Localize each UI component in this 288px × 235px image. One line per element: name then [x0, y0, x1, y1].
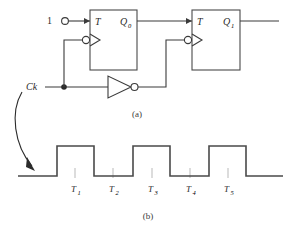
- period-subscript-5: 5: [231, 189, 235, 196]
- q0-arrowhead: [186, 18, 192, 24]
- flipflop-1-q-label: Q: [223, 16, 231, 27]
- period-subscript-1: 1: [78, 189, 81, 196]
- figure-container: 1 T Q 0 T Q 1: [0, 0, 288, 235]
- caption-a: (a): [132, 109, 142, 119]
- clock-label: Ck: [26, 81, 38, 92]
- flipflop-1-t-label: T: [197, 16, 204, 27]
- flipflop-1-clock-bubble: [184, 36, 191, 43]
- flipflop-0-q-subscript: 0: [128, 22, 132, 29]
- flipflop-0-q-label: Q: [120, 16, 128, 27]
- figure-svg: 1 T Q 0 T Q 1: [0, 0, 288, 235]
- clock-to-waveform-arrowhead: [26, 157, 35, 171]
- period-subscript-3: 3: [154, 189, 159, 196]
- input-terminal-circle: [62, 18, 69, 25]
- wire-clock-to-ff0: [64, 40, 82, 87]
- period-label-3: T: [148, 184, 154, 194]
- flipflop-0-clock-bubble: [82, 36, 89, 43]
- flipflop-1-q-subscript: 1: [231, 22, 234, 29]
- not-gate-bubble: [131, 84, 138, 91]
- period-label-5: T: [224, 184, 230, 194]
- input-arrowhead: [84, 18, 90, 24]
- flipflop-0-t-label: T: [95, 16, 102, 27]
- waveform-diagram: T 1 T 2 T 3 T 4 T 5 (b): [15, 92, 283, 221]
- period-label-4: T: [186, 184, 192, 194]
- flipflop-1-clock-triangle: [192, 34, 202, 46]
- period-label-1: T: [71, 184, 77, 194]
- period-subscript-4: 4: [193, 189, 197, 196]
- flipflop-0-clock-triangle: [90, 34, 100, 46]
- clock-to-waveform-arrow-curve: [15, 92, 32, 166]
- period-subscript-2: 2: [116, 189, 120, 196]
- caption-b: (b): [143, 211, 154, 221]
- input-one-label: 1: [47, 15, 52, 26]
- period-label-2: T: [109, 184, 115, 194]
- circuit-diagram: 1 T Q 0 T Q 1: [26, 10, 279, 119]
- not-gate-triangle: [108, 76, 131, 98]
- wire-notgate-to-ff1: [138, 40, 184, 87]
- clock-square-wave: [18, 146, 283, 176]
